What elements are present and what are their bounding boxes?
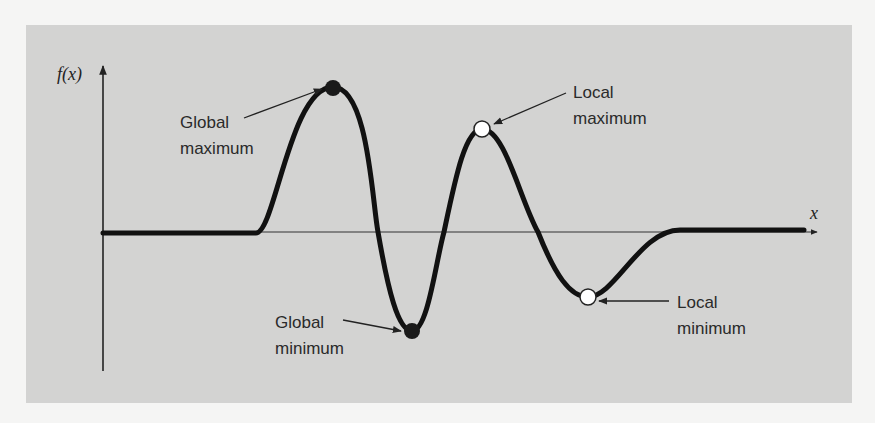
x-axis-label: x <box>809 203 818 223</box>
local-maximum-arrow <box>494 93 566 124</box>
global-maximum-marker <box>325 80 341 96</box>
global-minimum-arrow <box>343 320 401 331</box>
global-minimum-marker <box>404 323 420 339</box>
global-maximum-label-line1: Global <box>180 113 229 132</box>
local-maximum-label-line2: maximum <box>573 109 647 128</box>
local-minimum-label-line2: minimum <box>677 319 746 338</box>
global-minimum-label-line1: Global <box>275 313 324 332</box>
local-maximum-marker <box>474 121 490 137</box>
global-minimum-label-line2: minimum <box>275 339 344 358</box>
local-minimum-label-line1: Local <box>677 293 718 312</box>
y-axis-label: f(x) <box>57 64 82 85</box>
local-minimum-marker <box>580 289 596 305</box>
extrema-diagram: f(x) x Global maximum Local maximum Glob… <box>0 0 875 423</box>
local-maximum-label-line1: Local <box>573 83 614 102</box>
global-maximum-label-line2: maximum <box>180 139 254 158</box>
